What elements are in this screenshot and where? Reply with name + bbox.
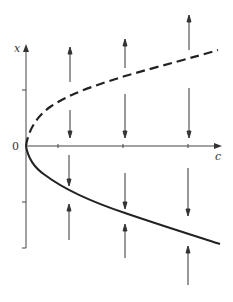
arrow-up-icon bbox=[123, 224, 127, 231]
origin-label: 0 bbox=[12, 140, 19, 153]
flow-arrows-column-2 bbox=[123, 39, 127, 258]
bifurcation-diagram: x 0 c bbox=[0, 0, 233, 302]
arrow-up-icon bbox=[68, 47, 72, 54]
arrow-down-icon bbox=[68, 131, 72, 138]
x-axis-label: x bbox=[14, 42, 21, 55]
arrow-up-icon bbox=[186, 246, 190, 253]
arrow-down-icon bbox=[187, 131, 191, 138]
arrow-up-icon bbox=[67, 204, 71, 211]
x-axis-arrow-icon bbox=[23, 44, 29, 52]
arrow-up-icon bbox=[187, 15, 191, 22]
arrow-down-icon bbox=[67, 179, 71, 186]
flow-arrows-column-3 bbox=[186, 15, 191, 285]
arrow-up-icon bbox=[123, 39, 127, 46]
arrow-down-icon bbox=[123, 202, 127, 209]
c-axis-label: c bbox=[215, 150, 221, 163]
c-axis-arrow-icon bbox=[214, 143, 222, 149]
arrow-down-icon bbox=[123, 131, 127, 138]
diagram-canvas: x 0 c bbox=[0, 0, 233, 302]
c-axis: c bbox=[26, 143, 222, 163]
arrow-down-icon bbox=[186, 209, 190, 216]
flow-arrows-column-1 bbox=[67, 47, 72, 240]
